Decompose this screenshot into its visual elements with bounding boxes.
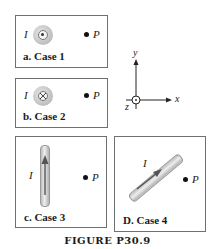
point-p-label: P <box>92 171 99 183</box>
point-p-label: P <box>93 89 100 101</box>
current-label: I <box>24 28 28 40</box>
case-2-panel: I P b. Case 2 <box>15 78 108 128</box>
y-axis-label: y <box>133 47 137 58</box>
case-1-label: a. Case 1 <box>23 50 65 62</box>
point-p-dot <box>83 175 88 180</box>
wire-into-page-icon <box>33 86 53 106</box>
point-p-dot <box>183 177 188 182</box>
figure-caption: FIGURE P30.9 <box>0 235 215 246</box>
case-4-label: D. Case 4 <box>123 214 167 226</box>
case-3-panel: I P c. Case 3 <box>15 136 107 228</box>
point-p-label: P <box>192 173 199 185</box>
case-2-label: b. Case 2 <box>23 110 65 122</box>
point-p-dot <box>84 93 89 98</box>
case-1-panel: I P a. Case 1 <box>15 15 108 68</box>
current-label: I <box>143 157 147 169</box>
z-axis-label: z <box>125 101 129 112</box>
case-4-panel: I P D. Case 4 <box>114 136 206 232</box>
point-p-label: P <box>93 28 100 40</box>
current-label: I <box>29 169 33 181</box>
coordinate-axes: y x z <box>120 55 180 115</box>
wire-out-of-page-icon <box>33 25 53 45</box>
point-p-dot <box>84 32 89 37</box>
x-axis-label: x <box>175 93 179 104</box>
current-label: I <box>24 89 28 101</box>
case-3-label: c. Case 3 <box>24 211 65 223</box>
